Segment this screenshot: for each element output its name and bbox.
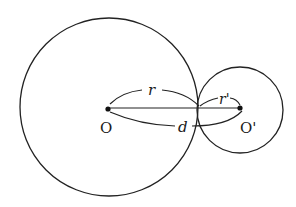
diagram-canvas: r r' d O O' [0,0,296,207]
circles-diagram: r r' d O O' [0,0,296,207]
d-brace-left [110,112,175,126]
label-r-prime: r' [219,91,230,107]
label-d: d [178,118,188,136]
r-brace [110,90,142,104]
r-prime-brace [200,98,218,106]
label-r: r [148,81,156,99]
center-dot-o-prime [237,105,242,110]
r-prime-brace-right [230,98,240,105]
label-o-prime: O' [240,119,256,137]
center-dot-o [105,106,110,111]
label-o: O [100,119,112,137]
r-brace-right [162,90,199,106]
